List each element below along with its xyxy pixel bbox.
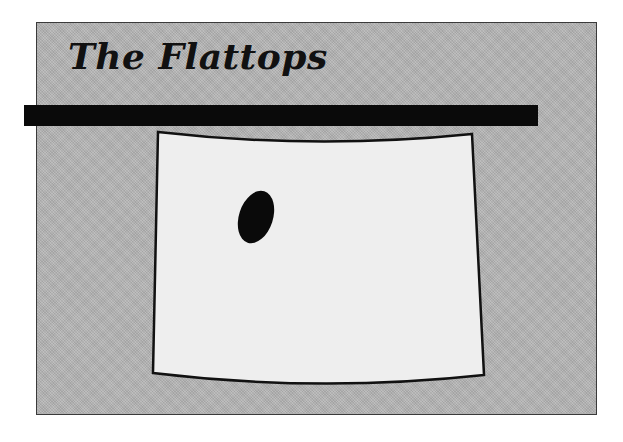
state-outline [153, 132, 484, 384]
state-map [0, 0, 623, 442]
